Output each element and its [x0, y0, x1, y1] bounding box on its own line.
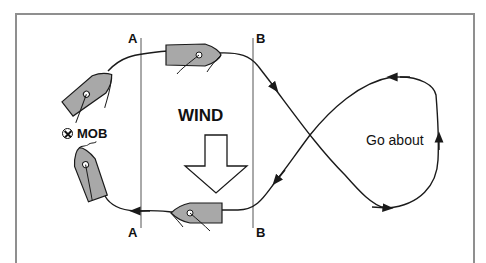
- line-b-top-label: B: [256, 32, 265, 45]
- line-a-top-label: A: [128, 32, 137, 45]
- mob-label: MOB: [77, 126, 107, 141]
- mob-label-group: MOB: [62, 127, 107, 140]
- wind-label: WIND: [178, 107, 223, 124]
- go-about-label: Go about: [366, 133, 424, 147]
- boat-bottom-center: [171, 203, 222, 231]
- wind-arrow-icon: [185, 135, 247, 193]
- circled-cross-icon: [62, 128, 73, 139]
- boat-upper-left: [59, 66, 125, 128]
- line-b-bottom-label: B: [256, 226, 265, 239]
- boat-top-center: [166, 44, 221, 74]
- boat-bottom-left: [69, 141, 115, 202]
- line-a-bottom-label: A: [128, 226, 137, 239]
